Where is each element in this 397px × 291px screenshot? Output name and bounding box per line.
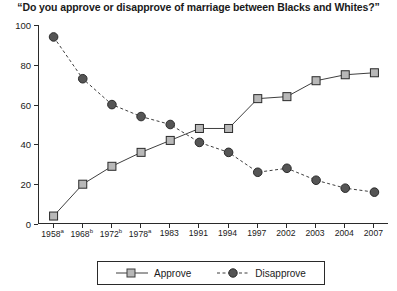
series-lines: [39, 25, 389, 224]
legend-disapprove-label: Disapprove: [255, 268, 306, 279]
x-tick-label: 2002: [276, 228, 295, 238]
data-point-approve-1978[interactable]: [137, 148, 145, 156]
y-tick-label: 0: [5, 219, 31, 230]
data-point-approve-1958[interactable]: [50, 212, 58, 220]
y-tick-label: 100: [5, 20, 31, 31]
data-point-disapprove-2003[interactable]: [312, 176, 321, 185]
y-tick-mark: [34, 25, 38, 26]
y-tick-label: 80: [5, 59, 31, 70]
x-tick-label: 1968b: [71, 228, 93, 239]
x-tick-label: 1972b: [100, 228, 122, 239]
data-point-disapprove-1972[interactable]: [108, 100, 117, 109]
series-line-approve: [54, 73, 375, 216]
y-tick-mark: [34, 184, 38, 185]
chart-title: “Do you approve or disapprove of marriag…: [0, 1, 397, 13]
data-point-approve-1997[interactable]: [254, 95, 262, 103]
x-tick-label: 1991: [189, 228, 208, 238]
chart-legend: Approve Disapprove: [97, 261, 325, 285]
legend-item-disapprove[interactable]: Disapprove: [217, 267, 306, 279]
legend-disapprove-swatch-icon: [217, 267, 249, 279]
data-point-approve-1994[interactable]: [225, 124, 233, 132]
x-tick-label: 2007: [364, 228, 383, 238]
y-tick-label: 60: [5, 99, 31, 110]
data-point-disapprove-1978[interactable]: [137, 112, 146, 121]
data-point-disapprove-1958[interactable]: [49, 33, 58, 42]
data-point-disapprove-1997[interactable]: [253, 168, 262, 177]
plot-frame: [38, 25, 388, 224]
data-point-disapprove-2002[interactable]: [283, 164, 292, 173]
data-point-approve-2003[interactable]: [312, 77, 320, 85]
legend-approve-swatch-icon: [116, 267, 148, 279]
data-point-approve-2007[interactable]: [370, 69, 378, 77]
data-point-approve-1972[interactable]: [108, 162, 116, 170]
data-point-disapprove-1994[interactable]: [224, 148, 233, 157]
x-tick-label: 1983: [160, 228, 179, 238]
plot-area: [39, 25, 388, 223]
data-point-approve-2004[interactable]: [341, 71, 349, 79]
data-point-disapprove-1991[interactable]: [195, 138, 204, 147]
y-tick-mark: [34, 105, 38, 106]
chart-container: “Do you approve or disapprove of marriag…: [0, 0, 397, 291]
data-point-disapprove-2004[interactable]: [341, 184, 350, 193]
x-tick-label: 2004: [335, 228, 354, 238]
y-tick-mark: [34, 224, 38, 225]
data-point-approve-1968[interactable]: [79, 180, 87, 188]
legend-approve-label: Approve: [154, 268, 191, 279]
data-point-disapprove-2007[interactable]: [370, 188, 379, 197]
legend-item-approve[interactable]: Approve: [116, 267, 191, 279]
data-point-approve-2002[interactable]: [283, 93, 291, 101]
x-tick-label: 1997: [247, 228, 266, 238]
y-tick-mark: [34, 144, 38, 145]
data-point-approve-1991[interactable]: [195, 124, 203, 132]
data-point-approve-1983[interactable]: [166, 136, 174, 144]
x-tick-label: 1978a: [129, 228, 151, 239]
y-tick-label: 40: [5, 139, 31, 150]
x-tick-label: 1958a: [41, 228, 63, 239]
y-tick-label: 20: [5, 179, 31, 190]
data-point-disapprove-1968[interactable]: [78, 74, 87, 83]
y-tick-mark: [34, 65, 38, 66]
series-line-disapprove: [54, 37, 375, 192]
x-tick-label: 2003: [306, 228, 325, 238]
x-tick-label: 1994: [218, 228, 237, 238]
data-point-disapprove-1983[interactable]: [166, 120, 175, 129]
